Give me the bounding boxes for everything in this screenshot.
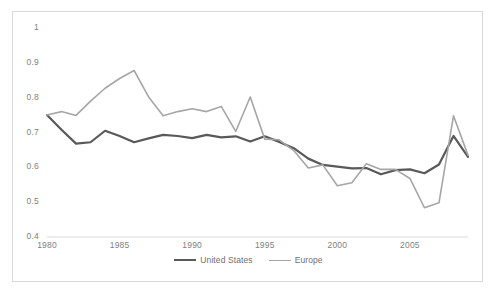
series-line-united-states [47,115,468,174]
legend-line-swatch-europe-icon [269,260,291,261]
x-axis-tick-label: 2005 [390,240,430,250]
x-axis-tick-label: 1985 [100,240,140,250]
legend-label-europe: Europe [295,255,323,265]
chart-card: 0.40.50.60.70.80.91 19801985199019952000… [12,11,483,282]
y-axis-tick-label: 0.6 [17,161,39,171]
x-axis-tick-label: 1995 [245,240,285,250]
y-axis-tick-label: 0.7 [17,127,39,137]
y-axis-tick-label: 0.9 [17,57,39,67]
x-axis-tick-label: 2000 [317,240,357,250]
chart-plot-area: 0.40.50.60.70.80.91 19801985199019952000… [13,12,484,283]
legend-label-united-states: United States [200,255,252,265]
legend-line-swatch-united-states-icon [174,259,196,261]
y-axis-tick-label: 0.8 [17,92,39,102]
x-axis-tick-label: 1980 [27,240,67,250]
y-axis-tick-label: 1 [17,22,39,32]
legend-item-europe[interactable]: Europe [269,255,323,265]
chart-legend: United States Europe [13,255,484,265]
series-layer [47,71,468,208]
y-axis-tick-label: 0.5 [17,196,39,206]
x-axis-tick-label: 1990 [172,240,212,250]
legend-item-united-states[interactable]: United States [174,255,252,265]
